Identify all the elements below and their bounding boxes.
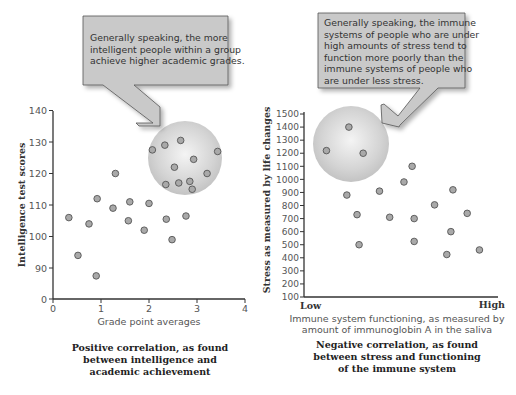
data-point bbox=[183, 213, 190, 220]
data-point bbox=[93, 273, 100, 280]
data-point bbox=[401, 179, 408, 186]
data-point bbox=[149, 147, 156, 154]
data-point bbox=[344, 192, 351, 199]
y-tick-label: 1100 bbox=[276, 162, 299, 172]
data-point bbox=[177, 137, 184, 144]
data-point bbox=[169, 236, 176, 243]
data-point bbox=[476, 247, 483, 254]
x-axis-high-label: High bbox=[479, 299, 505, 310]
data-point bbox=[411, 238, 418, 245]
text-line: Positive correlation, as found bbox=[72, 342, 229, 354]
positive-correlation-chart: 09010011012013014001234 Intelligence tes… bbox=[16, 16, 248, 377]
y-tick-label: 90 bbox=[35, 263, 47, 274]
highlight-circle bbox=[148, 121, 222, 195]
data-point bbox=[163, 216, 170, 223]
data-point bbox=[189, 186, 196, 193]
y-tick-label: 1300 bbox=[276, 135, 299, 145]
data-point bbox=[175, 180, 182, 187]
negative-correlation-chart: 1002003004005006007008009001000110012001… bbox=[261, 13, 505, 374]
y-tick-label: 1200 bbox=[276, 148, 299, 158]
right-caption: Negative correlation, as foundbetween st… bbox=[313, 339, 481, 374]
data-point bbox=[163, 181, 170, 188]
y-tick-label: 100 bbox=[29, 231, 47, 242]
text-line: academic achievement bbox=[90, 366, 212, 377]
data-point bbox=[75, 252, 82, 259]
text-line: intelligent people within a group bbox=[90, 44, 241, 55]
y-tick-label: 500 bbox=[282, 240, 299, 250]
data-point bbox=[127, 199, 134, 206]
data-point bbox=[86, 221, 93, 228]
data-point bbox=[464, 210, 471, 217]
text-line: Negative correlation, as found bbox=[316, 339, 478, 351]
text-line: between stress and functioning bbox=[313, 351, 481, 362]
right-y-axis-label: Stress as measured by life changes bbox=[261, 107, 272, 294]
data-point bbox=[450, 187, 457, 194]
left-callout-text: Generally speaking, the moreintelligent … bbox=[90, 32, 245, 66]
text-line: Generally speaking, the more bbox=[90, 32, 228, 43]
text-line: systems of people who are under bbox=[324, 29, 479, 40]
data-point bbox=[386, 214, 393, 221]
highlight-circle bbox=[313, 106, 389, 182]
data-point bbox=[354, 211, 361, 218]
y-tick-label: 400 bbox=[282, 253, 299, 263]
text-line: Immune system functioning, as measured b… bbox=[289, 313, 504, 324]
left-y-axis-label: Intelligence test scores bbox=[16, 143, 27, 268]
y-tick-label: 900 bbox=[282, 188, 299, 198]
data-point bbox=[411, 215, 418, 222]
left-x-axis-label: Grade point averages bbox=[97, 316, 200, 327]
y-tick-label: 300 bbox=[282, 266, 299, 276]
data-point bbox=[171, 164, 178, 171]
data-point bbox=[376, 188, 383, 195]
data-point bbox=[146, 200, 153, 207]
data-point bbox=[187, 178, 194, 185]
data-point bbox=[448, 228, 455, 235]
figure-canvas: 09010011012013014001234 Intelligence tes… bbox=[0, 0, 516, 395]
y-tick-label: 120 bbox=[29, 168, 47, 179]
left-tick-labels: 09010011012013014001234 bbox=[29, 105, 248, 314]
x-tick-label: 0 bbox=[50, 303, 56, 314]
y-tick-label: 110 bbox=[29, 200, 47, 211]
data-point bbox=[214, 148, 221, 155]
data-point bbox=[141, 227, 148, 234]
x-tick-label: 2 bbox=[146, 303, 152, 314]
text-line: high amounts of stress tend to bbox=[324, 40, 467, 51]
data-point bbox=[204, 170, 211, 177]
y-tick-label: 700 bbox=[282, 214, 299, 224]
y-tick-label: 1000 bbox=[276, 175, 299, 185]
data-point bbox=[66, 214, 73, 221]
text-line: function more poorly than the bbox=[324, 52, 464, 63]
y-tick-label: 200 bbox=[282, 279, 299, 289]
right-x-axis-label: Immune system functioning, as measured b… bbox=[289, 313, 504, 335]
y-tick-label: 100 bbox=[282, 292, 299, 302]
text-line: between intelligence and bbox=[83, 354, 217, 365]
data-point bbox=[110, 205, 117, 212]
x-tick-label: 3 bbox=[194, 303, 200, 314]
data-point bbox=[346, 124, 353, 131]
data-point bbox=[125, 217, 132, 224]
text-line: amount of immunoglobin A in the saliva bbox=[302, 324, 492, 335]
text-line: of the immune system bbox=[338, 363, 456, 374]
data-point bbox=[356, 241, 363, 248]
data-point bbox=[162, 142, 169, 149]
left-caption: Positive correlation, as foundbetween in… bbox=[72, 342, 229, 377]
y-tick-label: 0 bbox=[41, 294, 47, 305]
text-line: Generally speaking, the immune bbox=[324, 17, 476, 28]
data-point bbox=[112, 170, 119, 177]
x-tick-label: 1 bbox=[98, 303, 104, 314]
data-point bbox=[409, 163, 416, 170]
right-tick-labels: 1002003004005006007008009001000110012001… bbox=[276, 109, 299, 302]
y-tick-label: 1400 bbox=[276, 122, 299, 132]
data-point bbox=[94, 195, 101, 202]
text-line: achieve higher academic grades. bbox=[90, 55, 245, 66]
text-line: are under less stress. bbox=[324, 75, 424, 86]
data-point bbox=[431, 202, 438, 209]
text-line: immune systems of people who bbox=[324, 63, 472, 74]
y-tick-label: 1500 bbox=[276, 109, 299, 119]
y-tick-label: 600 bbox=[282, 227, 299, 237]
data-point bbox=[190, 156, 197, 163]
data-point bbox=[444, 251, 451, 258]
y-tick-label: 130 bbox=[29, 137, 47, 148]
x-axis-low-label: Low bbox=[300, 300, 322, 311]
y-tick-label: 800 bbox=[282, 201, 299, 211]
data-point bbox=[360, 150, 367, 157]
